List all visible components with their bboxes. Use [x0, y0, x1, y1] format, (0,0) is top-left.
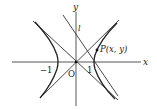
- line-l-label: l: [78, 24, 81, 33]
- hyperbola-right-branch: [94, 23, 117, 99]
- point-p-label: P(x, y): [99, 44, 127, 54]
- x-axis-label: x: [143, 57, 148, 67]
- tick-neg-one-label: −1: [40, 65, 53, 75]
- diagram-canvas: y l P(x, y) x O −1 1: [0, 0, 157, 110]
- tick-one-label: 1: [87, 65, 92, 75]
- y-axis-label: y: [72, 2, 79, 12]
- hyperbola-diagram: y l P(x, y) x O −1 1: [0, 0, 157, 110]
- origin-label: O: [68, 69, 75, 79]
- point-p: [96, 49, 99, 52]
- origin-point: [75, 61, 78, 64]
- line-l: [63, 15, 118, 96]
